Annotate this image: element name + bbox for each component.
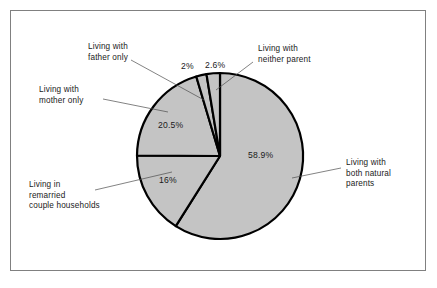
value-label-father-only: 2% xyxy=(181,61,194,71)
callout-label-both-natural-parents: Living with both natural parents xyxy=(346,158,391,190)
pie-slices xyxy=(137,73,303,239)
callout-label-remarried-couple-households: Living in remarried couple households xyxy=(29,180,100,212)
callout-label-mother-only: Living with mother only xyxy=(39,85,83,106)
callout-label-neither-parent: Living with neither parent xyxy=(258,44,311,65)
chart-page: Living with father only Living with neit… xyxy=(0,0,437,288)
value-label-neither-parent: 2.6% xyxy=(205,60,225,70)
value-label-both-natural-parents: 58.9% xyxy=(248,150,273,160)
value-label-mother-only: 20.5% xyxy=(158,120,183,130)
callout-label-father-only: Living with father only xyxy=(88,42,128,63)
value-label-remarried-couple-households: 16% xyxy=(159,175,177,185)
pie-chart-graphic xyxy=(0,0,437,288)
